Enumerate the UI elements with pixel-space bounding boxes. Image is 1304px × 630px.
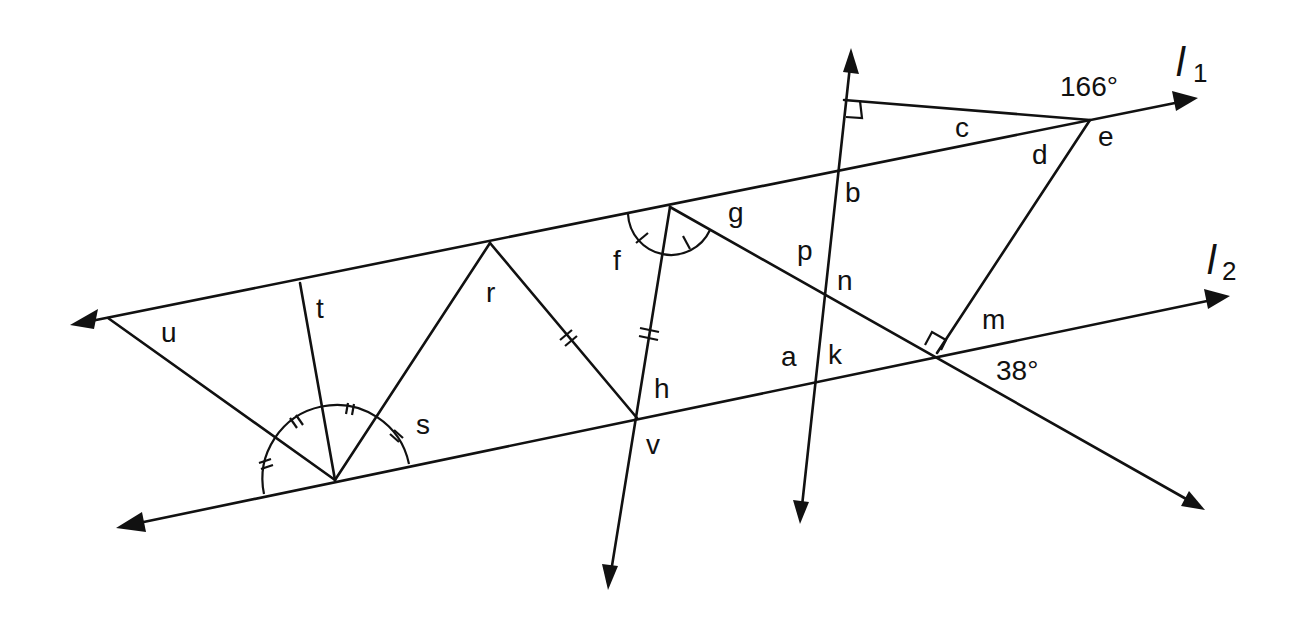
right-angle-mark xyxy=(846,101,862,118)
geometry-diagram: l 1 l 2 166° 38° c d e b g p n f m a k h… xyxy=(0,0,1304,630)
segment-r-left xyxy=(335,243,490,480)
angle-label-f: f xyxy=(613,245,621,276)
angle-label-v: v xyxy=(646,429,660,460)
arrow-left-icon xyxy=(116,512,146,532)
arrow-down-icon xyxy=(602,564,618,590)
line-l1 xyxy=(70,91,1198,329)
right-angle-mark xyxy=(925,332,946,350)
angle-label-u: u xyxy=(161,317,177,348)
angle-label-d: d xyxy=(1032,139,1048,170)
svg-text:1: 1 xyxy=(1193,58,1207,88)
angle-label-e: e xyxy=(1098,121,1114,152)
svg-text:l: l xyxy=(1176,40,1186,84)
given-angle-166: 166° xyxy=(1060,71,1118,102)
angle-label-h: h xyxy=(654,373,670,404)
line-label-l1: l 1 xyxy=(1176,40,1207,88)
given-angle-38: 38° xyxy=(996,355,1038,386)
angle-label-s: s xyxy=(416,409,430,440)
angle-label-t: t xyxy=(316,293,324,324)
svg-text:l: l xyxy=(1207,238,1217,282)
angle-label-c: c xyxy=(955,112,969,143)
angle-label-p: p xyxy=(797,235,813,266)
angle-label-k: k xyxy=(828,339,843,370)
diagonal-line xyxy=(670,207,1205,510)
arrow-right-icon xyxy=(1172,91,1198,111)
segment-u xyxy=(108,318,335,480)
angle-label-m: m xyxy=(982,304,1005,335)
segment-e-m xyxy=(937,120,1090,353)
arrow-right-icon xyxy=(1204,289,1230,309)
line-label-l2: l 2 xyxy=(1207,238,1236,286)
angle-label-a: a xyxy=(781,341,797,372)
single-tick-mark xyxy=(683,236,690,249)
arrow-down-right-icon xyxy=(1181,491,1205,510)
arrow-down-icon xyxy=(793,500,809,524)
arrow-left-icon xyxy=(70,309,98,329)
angle-label-b: b xyxy=(845,177,861,208)
angle-label-n: n xyxy=(837,265,853,296)
angle-label-g: g xyxy=(728,197,744,228)
angle-label-r: r xyxy=(486,277,495,308)
line-l2 xyxy=(116,289,1230,532)
arrow-up-icon xyxy=(843,48,859,74)
svg-text:2: 2 xyxy=(1222,256,1236,286)
